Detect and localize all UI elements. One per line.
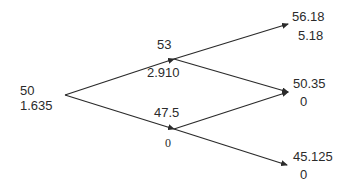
node-down-value: 0 <box>165 136 171 150</box>
edge-up-updown <box>174 59 288 92</box>
node-down-down-value: 0 <box>300 168 307 182</box>
edge-down-updown <box>174 92 288 129</box>
node-up-up-value: 5.18 <box>298 29 323 43</box>
node-up-price: 53 <box>157 38 171 52</box>
node-root-value: 1.635 <box>20 99 53 113</box>
node-up-down-price: 50.35 <box>293 77 326 91</box>
node-down-down-price: 45.125 <box>293 150 333 164</box>
node-down-price: 47.5 <box>154 106 179 120</box>
edge-down-downdown <box>174 129 287 165</box>
edge-up-upup <box>174 24 288 59</box>
node-root-price: 50 <box>20 84 34 98</box>
node-up-value: 2.910 <box>147 66 180 80</box>
node-up-down-value: 0 <box>300 95 307 109</box>
node-up-up-price: 56.18 <box>292 10 325 24</box>
